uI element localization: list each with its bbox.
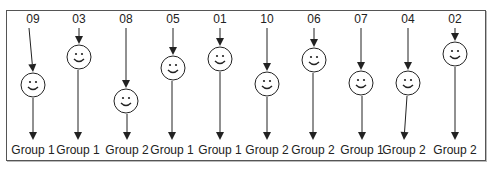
arrowhead-icon xyxy=(310,39,318,47)
arrowhead-icon xyxy=(451,132,459,140)
arrowhead-icon xyxy=(401,132,409,140)
arrowhead-icon xyxy=(216,132,224,140)
eye-icon xyxy=(128,97,130,99)
arrowhead-icon xyxy=(29,132,37,140)
smiley-face-icon xyxy=(349,71,373,95)
group-label: Group 2 xyxy=(425,143,485,157)
smiley-face-icon xyxy=(208,47,232,71)
eye-icon xyxy=(81,53,83,55)
eye-icon xyxy=(263,80,265,82)
smiley-face-icon xyxy=(302,48,326,72)
smiley-face-icon xyxy=(161,56,185,80)
arrowhead-icon xyxy=(74,132,82,140)
eye-icon xyxy=(169,64,171,66)
eye-icon xyxy=(216,55,218,57)
eye-icon xyxy=(222,55,224,57)
arrowhead-icon xyxy=(263,132,271,140)
eye-icon xyxy=(175,64,177,66)
arrow-line xyxy=(29,28,32,64)
arrowhead-icon xyxy=(169,47,177,55)
participant-id-label: 02 xyxy=(425,12,485,26)
eye-icon xyxy=(404,79,406,81)
smiley-face-icon xyxy=(396,71,420,95)
arrowhead-icon xyxy=(451,33,459,41)
arrowhead-icon xyxy=(28,64,36,72)
eye-icon xyxy=(316,56,318,58)
eye-icon xyxy=(363,79,365,81)
eye-icon xyxy=(35,81,37,83)
smiley-face-icon xyxy=(114,89,138,113)
arrowhead-icon xyxy=(263,63,271,71)
arrowhead-icon xyxy=(358,132,366,140)
eye-icon xyxy=(451,50,453,52)
eye-icon xyxy=(410,79,412,81)
arrowhead-icon xyxy=(357,62,365,70)
arrowhead-icon xyxy=(75,36,83,44)
eye-icon xyxy=(75,53,77,55)
smiley-face-icon xyxy=(67,45,91,69)
arrowhead-icon xyxy=(404,62,412,70)
arrowhead-icon xyxy=(216,38,224,46)
arrowhead-icon xyxy=(122,80,130,88)
eye-icon xyxy=(122,97,124,99)
eye-icon xyxy=(269,80,271,82)
arrow-line xyxy=(405,96,407,132)
arrowhead-icon xyxy=(168,132,176,140)
arrowhead-icon xyxy=(309,132,317,140)
smiley-face-icon xyxy=(21,73,45,97)
eye-icon xyxy=(310,56,312,58)
arrowhead-icon xyxy=(123,132,131,140)
eye-icon xyxy=(357,79,359,81)
smiley-face-icon xyxy=(443,42,467,66)
eye-icon xyxy=(29,81,31,83)
eye-icon xyxy=(457,50,459,52)
smiley-face-icon xyxy=(255,72,279,96)
